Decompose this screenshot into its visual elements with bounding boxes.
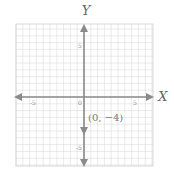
y-axis-label: Y <box>82 3 92 18</box>
tick-label-y-5: 5 <box>78 42 82 49</box>
tick-label-x-5: 5 <box>133 99 137 106</box>
tick-label-x-neg5: -5 <box>30 99 36 106</box>
x-axis-label: X <box>157 89 168 104</box>
coordinate-plane: Y X -5 0 5 5 -5 (0, −4) <box>0 0 174 172</box>
tick-label-origin: 0 <box>78 99 82 106</box>
x-axis-left-arrow-icon <box>14 93 22 101</box>
point-label: (0, −4) <box>88 112 123 123</box>
tick-label-y-neg5: -5 <box>76 144 82 151</box>
y-axis-up-arrow-icon <box>80 24 88 32</box>
